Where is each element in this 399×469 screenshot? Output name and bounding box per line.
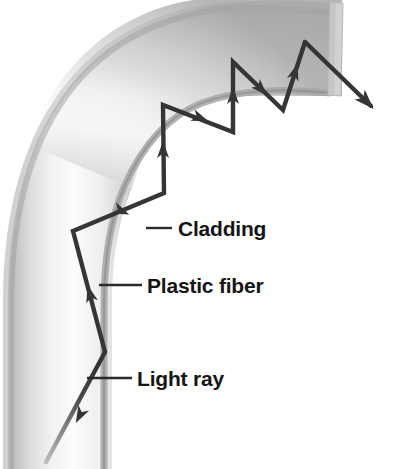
cladding-label-text: Cladding [178, 217, 266, 240]
plastic-fiber-label-text: Plastic fiber [147, 274, 263, 297]
fiber-optic-diagram: Cladding Plastic fiber Light ray [0, 0, 399, 469]
diagram-canvas: Cladding Plastic fiber Light ray [0, 0, 399, 469]
light-ray-label-text: Light ray [137, 367, 224, 390]
label-plastic-fiber[interactable]: Plastic fiber [99, 274, 263, 297]
label-cladding[interactable]: Cladding [146, 217, 266, 240]
